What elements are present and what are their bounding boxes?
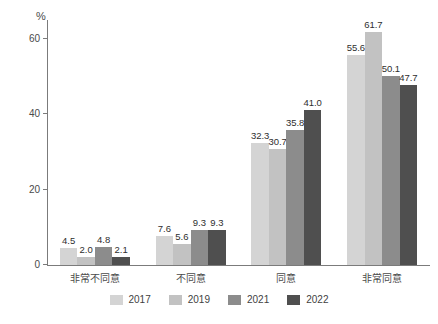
bar-value-label: 55.6 [347, 42, 366, 53]
bar-value-label: 5.6 [175, 231, 188, 242]
legend-swatch [169, 295, 182, 305]
bar-value-label: 2.1 [115, 244, 128, 255]
bar-group: 4.52.04.82.1 [60, 20, 130, 265]
legend-item[interactable]: 2017 [110, 294, 151, 306]
bar[interactable] [156, 236, 174, 265]
legend-item[interactable]: 2021 [228, 294, 269, 306]
bar[interactable] [191, 230, 209, 265]
x-axis-category-label: 同意 [276, 272, 296, 286]
bar-slot: 7.6 [156, 20, 174, 265]
legend-swatch [228, 295, 241, 305]
bar[interactable] [382, 76, 400, 265]
bar-slot: 9.3 [208, 20, 226, 265]
bar[interactable] [251, 143, 269, 265]
bar-value-label: 50.1 [382, 63, 401, 74]
bar-slot: 50.1 [382, 20, 400, 265]
bar-group: 55.661.750.147.7 [347, 20, 417, 265]
y-axis-tick-label: 60 [29, 32, 40, 45]
legend-label: 2022 [306, 294, 328, 306]
bar-value-label: 32.3 [251, 130, 270, 141]
y-axis-unit-label: % [36, 10, 46, 22]
bar-value-label: 4.5 [62, 235, 75, 246]
bar[interactable] [286, 130, 304, 265]
bar-value-label: 9.3 [210, 217, 223, 228]
bar-value-label: 30.7 [268, 136, 287, 147]
legend-item[interactable]: 2019 [169, 294, 210, 306]
bar-value-label: 61.7 [364, 19, 383, 30]
bar[interactable] [400, 85, 418, 265]
x-axis-line [47, 265, 430, 266]
bar-group: 32.330.735.841.0 [251, 20, 321, 265]
bar[interactable] [304, 110, 322, 265]
legend-label: 2019 [188, 294, 210, 306]
bar-slot: 61.7 [365, 20, 383, 265]
bar[interactable] [208, 230, 226, 265]
bar-slot: 4.8 [95, 20, 113, 265]
bar[interactable] [77, 257, 95, 265]
bar-slot: 41.0 [304, 20, 322, 265]
bar-chart: % 0204060 4.52.04.82.17.65.69.39.332.330… [0, 0, 438, 324]
bar-value-label: 9.3 [193, 217, 206, 228]
x-axis-category-label: 不同意 [176, 272, 206, 286]
bar-group: 7.65.69.39.3 [156, 20, 226, 265]
bar[interactable] [365, 32, 383, 265]
legend-label: 2017 [129, 294, 151, 306]
bar[interactable] [173, 244, 191, 265]
legend-swatch [287, 295, 300, 305]
bar-slot: 5.6 [173, 20, 191, 265]
x-axis-category-label: 非常同意 [362, 272, 402, 286]
bar-value-label: 4.8 [97, 234, 110, 245]
bar[interactable] [95, 247, 113, 265]
legend-label: 2021 [247, 294, 269, 306]
bar-slot: 9.3 [191, 20, 209, 265]
bar-value-label: 47.7 [399, 72, 418, 83]
bar[interactable] [112, 257, 130, 265]
bar-slot: 47.7 [400, 20, 418, 265]
bar-slot: 4.5 [60, 20, 78, 265]
y-axis-tick-label: 0 [34, 258, 40, 271]
chart-legend: 2017201920212022 [0, 294, 438, 306]
bar-slot: 55.6 [347, 20, 365, 265]
bar-slot: 2.1 [112, 20, 130, 265]
y-axis-tick-label: 20 [29, 183, 40, 196]
bar[interactable] [347, 55, 365, 265]
x-axis-category-label: 非常不同意 [70, 272, 120, 286]
bar-slot: 35.8 [286, 20, 304, 265]
bar-slot: 2.0 [77, 20, 95, 265]
bar-slot: 32.3 [251, 20, 269, 265]
plot-area: 4.52.04.82.17.65.69.39.332.330.735.841.0… [47, 20, 430, 265]
bar-slot: 30.7 [269, 20, 287, 265]
bar[interactable] [60, 248, 78, 265]
legend-swatch [110, 295, 123, 305]
bar-value-label: 35.8 [286, 117, 305, 128]
y-axis-tick-label: 40 [29, 107, 40, 120]
legend-item[interactable]: 2022 [287, 294, 328, 306]
bar-value-label: 2.0 [80, 244, 93, 255]
bar[interactable] [269, 149, 287, 265]
bar-value-label: 41.0 [303, 97, 322, 108]
bar-value-label: 7.6 [158, 223, 171, 234]
